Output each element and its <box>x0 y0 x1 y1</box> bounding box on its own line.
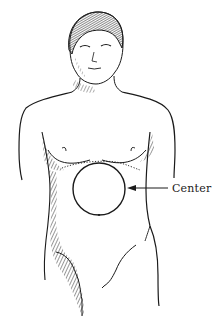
right-nipple <box>131 147 135 151</box>
abdomen <box>48 170 136 316</box>
left-nipple <box>62 147 66 151</box>
head <box>69 12 123 84</box>
center-arrow <box>127 185 168 191</box>
torso-outline <box>19 92 175 306</box>
chest <box>42 132 154 171</box>
torso-illustration: Center <box>0 0 212 327</box>
center-label: Center <box>172 182 211 195</box>
illustration-svg <box>0 0 212 327</box>
center-circle <box>73 163 125 215</box>
